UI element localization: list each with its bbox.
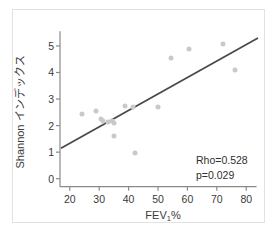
data-point xyxy=(233,67,238,72)
x-axis-label: FEV1% xyxy=(145,210,180,221)
y-axis-label: Shannon インデックス xyxy=(15,55,26,168)
annotation-p-value: p=0.029 xyxy=(196,170,234,181)
scatter-plot-figure: 20304050607080 012345 FEV1% Shannon インデッ… xyxy=(0,0,277,241)
plot-canvas xyxy=(0,0,277,241)
x-tick-label-50: 50 xyxy=(152,194,164,205)
data-point xyxy=(186,46,191,51)
x-axis-label-suffix: % xyxy=(171,209,181,221)
data-point xyxy=(93,109,98,114)
data-point xyxy=(132,150,137,155)
data-point xyxy=(220,41,225,46)
y-tick-label-5: 5 xyxy=(44,41,54,52)
y-tick-label-0: 0 xyxy=(44,173,54,184)
data-point xyxy=(112,134,117,139)
y-tick-label-3: 3 xyxy=(44,94,54,105)
regression-line xyxy=(61,38,258,148)
data-point xyxy=(131,105,136,110)
annotation-rho: Rho=0.528 xyxy=(196,155,248,166)
y-tick-label-2: 2 xyxy=(44,120,54,131)
x-tick-label-30: 30 xyxy=(93,194,105,205)
x-tick-label-20: 20 xyxy=(64,194,76,205)
data-point xyxy=(80,112,85,117)
data-point xyxy=(168,55,173,60)
data-point xyxy=(123,103,128,108)
x-axis-label-main: FEV xyxy=(145,209,166,221)
x-tick-label-40: 40 xyxy=(123,194,135,205)
x-axis-label-subscript: 1 xyxy=(167,214,171,223)
x-tick-label-70: 70 xyxy=(211,194,223,205)
data-point xyxy=(156,104,161,109)
y-tick-label-4: 4 xyxy=(44,67,54,78)
x-tick-label-60: 60 xyxy=(182,194,194,205)
x-tick-label-80: 80 xyxy=(240,194,252,205)
y-tick-label-1: 1 xyxy=(44,147,54,158)
data-point xyxy=(111,120,116,125)
